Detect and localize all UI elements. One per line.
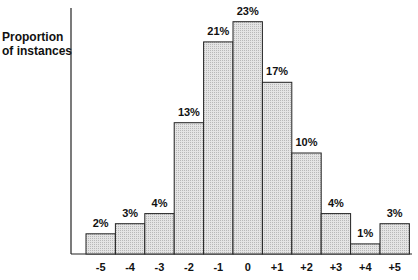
x-tick-+5: +5 (388, 261, 401, 273)
x-tick-0: 0 (245, 261, 251, 273)
value-label-+5: 3% (387, 207, 403, 219)
bar--3 (145, 214, 174, 254)
x-tick--3: -3 (155, 261, 165, 273)
bar--5 (86, 234, 115, 254)
bar--4 (115, 224, 144, 254)
bar-+3 (321, 214, 350, 254)
x-tick-+4: +4 (359, 261, 372, 273)
value-label-0: 23% (237, 5, 259, 17)
x-tick--1: -1 (213, 261, 223, 273)
x-tick--5: -5 (96, 261, 106, 273)
value-label--1: 21% (207, 25, 229, 37)
bar--1 (204, 42, 233, 254)
x-tick--4: -4 (125, 261, 136, 273)
x-tick-+2: +2 (300, 261, 313, 273)
value-label--4: 3% (122, 207, 138, 219)
value-label-+4: 1% (357, 227, 373, 239)
bars-group: 2%-53%-44%-313%-221%-123%017%+110%+24%+3… (86, 5, 409, 273)
value-label-+1: 17% (266, 65, 288, 77)
value-label-+2: 10% (295, 136, 317, 148)
bar-+4 (351, 244, 380, 254)
value-label-+3: 4% (328, 197, 344, 209)
bar-0 (233, 22, 262, 254)
x-tick-+3: +3 (330, 261, 343, 273)
bar-+1 (262, 82, 291, 254)
bar-+2 (292, 153, 321, 254)
x-tick-+1: +1 (271, 261, 284, 273)
value-label--5: 2% (93, 217, 109, 229)
x-tick--2: -2 (184, 261, 194, 273)
bar-chart: 2%-53%-44%-313%-221%-123%017%+110%+24%+3… (0, 0, 418, 280)
bar-+5 (380, 224, 409, 254)
value-label--2: 13% (178, 106, 200, 118)
bar--2 (174, 123, 203, 254)
value-label--3: 4% (152, 197, 168, 209)
